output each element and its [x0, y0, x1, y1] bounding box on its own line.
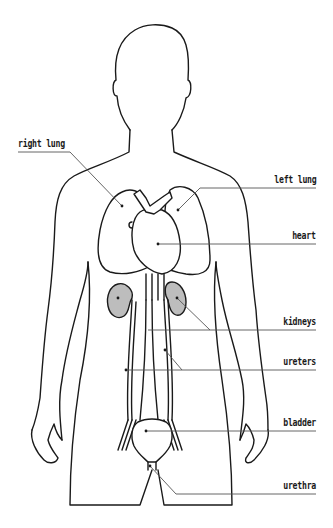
- left-arm-outer: [240, 424, 268, 463]
- heart-shape: [132, 209, 180, 274]
- label-kidneys: kidneys: [283, 316, 316, 327]
- label-ureters: ureters: [283, 356, 316, 367]
- vessel-stub: [129, 222, 132, 228]
- head-outline: [113, 25, 191, 130]
- vena-cava: [146, 274, 164, 300]
- right-kidney: [107, 284, 132, 318]
- right-arm-inner: [60, 262, 88, 440]
- label-right-lung: right lung: [18, 138, 65, 149]
- left-ureter: [164, 300, 173, 420]
- right-ureter: [127, 300, 136, 420]
- aorta: [134, 190, 172, 214]
- neck-right: [172, 130, 268, 430]
- neck-left: [32, 130, 130, 430]
- label-left-lung: left lung: [274, 174, 316, 185]
- bladder-shape: [132, 419, 172, 462]
- label-bladder: bladder: [283, 417, 316, 428]
- right-arm-outer: [32, 424, 62, 463]
- left-arm-inner: [216, 262, 244, 440]
- label-urethra: urethra: [283, 480, 316, 491]
- center-vessels: [140, 300, 158, 420]
- body-diagram: [0, 0, 333, 528]
- label-heart: heart: [293, 230, 316, 241]
